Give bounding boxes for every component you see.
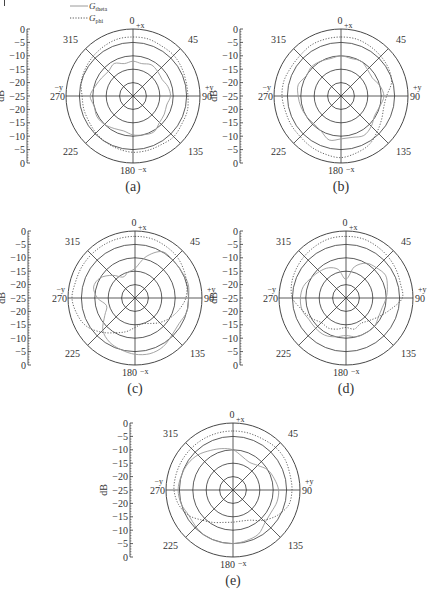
axis-label-minus-x: −x: [346, 165, 355, 174]
radial-tick-label: 0: [20, 24, 25, 35]
angle-label-180: 180: [122, 367, 137, 378]
legend-theta-label: Gtheta: [89, 1, 107, 12]
radial-tick-label: −15: [222, 117, 238, 128]
radial-tick-label: −5: [15, 346, 26, 357]
polar-panel-e: 0−5−10−15−20−25−20−15−10−50dB04590135180…: [98, 409, 314, 589]
radial-tick-label: −10: [222, 131, 238, 142]
radial-tick-label: 0: [233, 360, 238, 371]
radial-tick-label: −10: [222, 252, 238, 263]
angle-label-45: 45: [288, 428, 298, 439]
angle-label-135: 135: [401, 348, 416, 359]
radial-tick-label: −15: [9, 117, 25, 128]
radial-tick-label: −10: [222, 333, 238, 344]
polar-panel-d: 0−5−10−15−20−25−20−15−10−50dB04590135180…: [208, 217, 427, 397]
radial-tick-label: −5: [227, 144, 238, 155]
angle-label-180: 180: [328, 165, 343, 176]
radial-tick-label: −5: [117, 538, 128, 549]
angle-label-0: 0: [132, 217, 137, 228]
axis-label-plus-y: +y: [418, 285, 427, 294]
radial-tick-label: −10: [112, 444, 128, 455]
panel-label: (e): [225, 573, 241, 589]
radial-tick-label: −20: [222, 104, 238, 115]
axis-label-plus-x: +x: [138, 223, 147, 232]
radial-tick-label: −10: [10, 333, 26, 344]
radial-tick-label: −10: [222, 50, 238, 61]
radial-tick-label: −25: [10, 293, 26, 304]
series-g-phi: [291, 236, 403, 329]
angle-label-0: 0: [230, 409, 235, 420]
angle-label-0: 0: [130, 15, 135, 26]
radial-axis-title: dB: [208, 292, 219, 304]
angle-label-225: 225: [276, 348, 291, 359]
angle-label-315: 315: [276, 236, 291, 247]
axis-label-minus-y: −y: [262, 83, 271, 92]
radial-axis-title: dB: [208, 90, 219, 102]
radial-tick-label: −25: [222, 91, 238, 102]
radial-tick-label: −5: [14, 144, 25, 155]
axis-label-minus-y: −y: [54, 83, 63, 92]
axis-label-minus-y: −y: [56, 285, 65, 294]
radial-tick-label: −5: [227, 37, 238, 48]
radial-tick-label: −10: [112, 525, 128, 536]
axis-label-plus-x: +x: [236, 415, 245, 424]
legend: Gtheta Gphi: [70, 1, 107, 24]
axis-label-minus-y: −y: [154, 477, 163, 486]
radial-tick-label: 0: [233, 24, 238, 35]
series-g-phi: [72, 236, 187, 333]
radial-tick-label: −5: [14, 37, 25, 48]
radial-tick-label: −20: [10, 306, 26, 317]
radial-tick-label: 0: [123, 552, 128, 563]
radial-tick-label: −25: [222, 293, 238, 304]
angle-label-0: 0: [338, 15, 343, 26]
polar-panel-c: 0−5−10−15−20−25−20−15−10−50dB04590135180…: [0, 217, 216, 397]
radial-tick-label: −5: [117, 431, 128, 442]
radial-tick-label: −15: [10, 266, 26, 277]
axis-label-plus-y: +y: [413, 83, 422, 92]
angle-label-315: 315: [163, 428, 178, 439]
panel-label: (b): [333, 179, 350, 195]
radial-tick-label: −25: [112, 485, 128, 496]
radial-tick-label: −15: [222, 319, 238, 330]
radial-tick-label: −5: [15, 239, 26, 250]
radial-tick-label: −15: [112, 458, 128, 469]
angle-label-180: 180: [220, 559, 235, 570]
axis-label-minus-x: −x: [138, 165, 147, 174]
angle-label-270: 270: [263, 293, 278, 304]
axis-label-minus-x: −x: [140, 367, 149, 376]
angle-label-135: 135: [188, 146, 203, 157]
polar-panel-a: 0−5−10−15−20−25−20−15−10−50dB04590135180…: [0, 15, 214, 195]
angle-label-135: 135: [396, 146, 411, 157]
panel-label: (a): [125, 179, 141, 195]
radial-tick-label: −20: [10, 279, 26, 290]
angle-label-315: 315: [65, 236, 80, 247]
panel-label: (c): [127, 381, 143, 397]
axis-label-plus-y: +y: [305, 477, 314, 486]
radial-tick-label: 0: [233, 158, 238, 169]
radial-tick-label: −25: [9, 91, 25, 102]
radial-axis-title: dB: [0, 90, 6, 102]
radial-tick-label: −5: [227, 346, 238, 357]
angle-label-90: 90: [302, 485, 312, 496]
radial-tick-label: −15: [10, 319, 26, 330]
axis-label-minus-x: −x: [351, 367, 360, 376]
radial-tick-label: 0: [21, 360, 26, 371]
radial-tick-label: 0: [123, 418, 128, 429]
angle-label-90: 90: [410, 91, 420, 102]
radial-axis-title: dB: [0, 292, 7, 304]
radial-tick-label: −20: [9, 104, 25, 115]
radial-tick-label: −15: [9, 64, 25, 75]
angle-label-135: 135: [288, 540, 303, 551]
axis-label-minus-x: −x: [238, 559, 247, 568]
angle-label-45: 45: [396, 34, 406, 45]
angle-label-270: 270: [52, 293, 67, 304]
angle-label-45: 45: [401, 236, 411, 247]
angle-label-270: 270: [50, 91, 65, 102]
angle-label-315: 315: [63, 34, 78, 45]
radial-axis-title: dB: [98, 484, 109, 496]
angle-label-180: 180: [120, 165, 135, 176]
radial-tick-label: −15: [112, 511, 128, 522]
angle-label-225: 225: [63, 146, 78, 157]
axis-label-plus-x: +x: [344, 21, 353, 30]
radial-tick-label: −5: [227, 239, 238, 250]
angle-label-45: 45: [190, 236, 200, 247]
